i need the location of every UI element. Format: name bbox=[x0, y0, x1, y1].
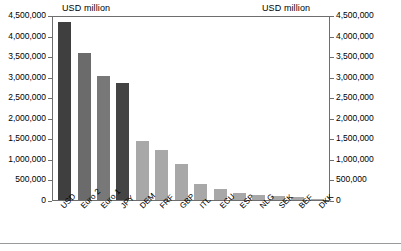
right-axis-tick-label: 1,500,000 bbox=[336, 134, 374, 143]
left-axis-tick-label: 4,500,000 bbox=[8, 11, 46, 20]
right-axis-tick-mark bbox=[330, 119, 334, 120]
bar bbox=[116, 83, 129, 200]
right-axis-tick-mark bbox=[330, 78, 334, 79]
left-axis-tick-label: 3,500,000 bbox=[8, 52, 46, 61]
left-axis-tick-mark bbox=[48, 160, 52, 161]
left-axis-tick-label: 2,000,000 bbox=[8, 114, 46, 123]
right-axis-tick-mark bbox=[330, 180, 334, 181]
left-axis-tick-mark bbox=[48, 180, 52, 181]
left-axis-tick-label: 2,500,000 bbox=[8, 93, 46, 102]
right-axis-tick-mark bbox=[330, 37, 334, 38]
left-axis-title: USD million bbox=[62, 3, 110, 13]
right-axis-title: USD million bbox=[262, 3, 310, 13]
left-axis-tick-mark bbox=[48, 57, 52, 58]
right-axis-tick-mark bbox=[330, 98, 334, 99]
right-axis-tick-label: 500,000 bbox=[336, 175, 367, 184]
right-axis-tick-mark bbox=[330, 57, 334, 58]
left-axis-tick-label: 1,000,000 bbox=[8, 155, 46, 164]
bar bbox=[136, 141, 149, 200]
bar bbox=[155, 150, 168, 200]
bar bbox=[58, 22, 71, 200]
right-axis-tick-mark bbox=[330, 16, 334, 17]
bar bbox=[97, 76, 110, 200]
right-axis-tick-mark bbox=[330, 139, 334, 140]
bars-layer bbox=[53, 17, 329, 200]
right-axis-tick-label: 3,000,000 bbox=[336, 73, 374, 82]
right-axis-tick-label: 1,000,000 bbox=[336, 155, 374, 164]
left-axis-tick-mark bbox=[48, 119, 52, 120]
right-axis-tick-mark bbox=[330, 160, 334, 161]
left-axis-tick-label: 0 bbox=[41, 196, 46, 205]
right-axis-tick-label: 0 bbox=[336, 196, 341, 205]
left-axis-tick-mark bbox=[48, 78, 52, 79]
bar-chart: USD million USD million 4,500,0004,000,0… bbox=[0, 0, 401, 251]
footer-divider bbox=[0, 243, 401, 244]
left-axis-tick-label: 500,000 bbox=[15, 175, 46, 184]
left-axis-tick-label: 1,500,000 bbox=[8, 134, 46, 143]
right-axis-tick-label: 2,000,000 bbox=[336, 114, 374, 123]
left-axis-tick-mark bbox=[48, 98, 52, 99]
left-axis-tick-label: 3,000,000 bbox=[8, 73, 46, 82]
plot-area bbox=[52, 16, 330, 201]
left-axis-tick-label: 4,000,000 bbox=[8, 32, 46, 41]
left-axis-tick-mark bbox=[48, 16, 52, 17]
bar bbox=[78, 53, 91, 200]
right-axis-tick-label: 2,500,000 bbox=[336, 93, 374, 102]
right-axis-tick-label: 3,500,000 bbox=[336, 52, 374, 61]
left-axis-tick-mark bbox=[48, 37, 52, 38]
right-axis-tick-label: 4,000,000 bbox=[336, 32, 374, 41]
left-axis-tick-mark bbox=[48, 139, 52, 140]
right-axis-tick-label: 4,500,000 bbox=[336, 11, 374, 20]
